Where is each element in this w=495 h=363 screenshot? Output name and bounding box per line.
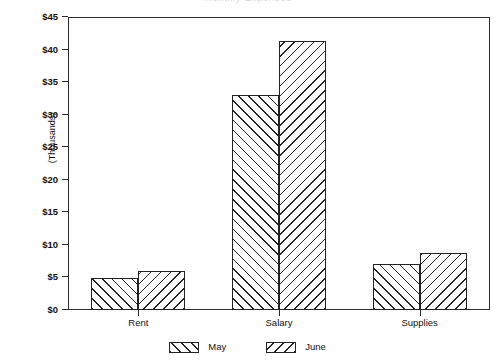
- legend-item-june: June: [266, 341, 326, 353]
- legend-swatch-may: [169, 342, 199, 353]
- legend-label-june: June: [305, 341, 326, 353]
- x-axis-tick-mark: [279, 310, 280, 316]
- y-axis-tick-label: $35: [42, 76, 58, 88]
- bar-supplies-june: [420, 253, 467, 310]
- y-axis-tick-label: $40: [42, 44, 58, 56]
- bars-layer: [68, 17, 490, 310]
- y-axis-tick-label: $0: [47, 304, 58, 316]
- y-axis-tick-label: $20: [42, 174, 58, 186]
- bar-salary-june: [279, 41, 326, 310]
- y-axis-tick-label: $10: [42, 239, 58, 251]
- y-axis-tick-label: $45: [42, 11, 58, 23]
- y-axis-tick-label: $15: [42, 206, 58, 218]
- y-axis-tick: $5: [0, 271, 68, 283]
- chart-title-remnant: Monthly Expenses: [0, 0, 495, 9]
- y-axis-tick-label: $5: [47, 271, 58, 283]
- legend-item-may: May: [169, 341, 226, 353]
- y-axis-tick: $35: [0, 76, 68, 88]
- x-axis-tick-mark: [138, 310, 139, 316]
- y-axis-tick: $25: [0, 141, 68, 153]
- legend-label-may: May: [208, 341, 226, 353]
- bar-supplies-may: [373, 264, 420, 310]
- y-axis-tick: $0: [0, 304, 68, 316]
- x-axis-label-supplies: Supplies: [375, 317, 465, 329]
- y-axis-tick: $10: [0, 239, 68, 251]
- bar-salary-may: [232, 95, 279, 310]
- y-axis-tick: $20: [0, 174, 68, 186]
- y-axis-tick: $30: [0, 109, 68, 121]
- chart-legend: MayJune: [0, 338, 495, 356]
- x-axis-label-rent: Rent: [93, 317, 183, 329]
- bar-rent-may: [91, 278, 138, 310]
- bar-chart: Monthly Expenses (Thousands) $0$5$10$15$…: [0, 0, 495, 363]
- y-axis-tick-label: $25: [42, 141, 58, 153]
- y-axis-tick: $45: [0, 11, 68, 23]
- x-axis-label-salary: Salary: [234, 317, 324, 329]
- bar-rent-june: [138, 271, 185, 310]
- chart-title-text: Monthly Expenses: [203, 0, 291, 2]
- y-axis-tick: $15: [0, 206, 68, 218]
- y-axis-tick-label: $30: [42, 109, 58, 121]
- y-axis-tick: $40: [0, 44, 68, 56]
- legend-swatch-june: [266, 342, 296, 353]
- x-axis-tick-mark: [420, 310, 421, 316]
